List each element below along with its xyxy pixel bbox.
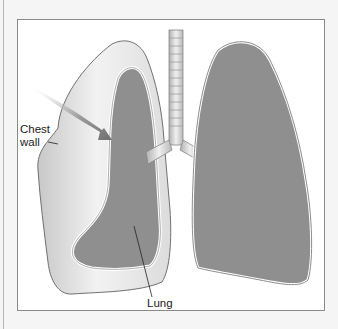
chest-wall-label-line1: Chest [20, 123, 50, 136]
chest-wall-label-line2: wall [20, 136, 50, 149]
lung-diagram [0, 0, 338, 329]
lung-label: Lung [147, 297, 173, 310]
chest-wall-label: Chest wall [20, 123, 50, 149]
collapsed-lung-group [38, 41, 171, 294]
healthy-lung [192, 42, 311, 285]
